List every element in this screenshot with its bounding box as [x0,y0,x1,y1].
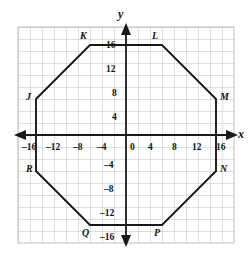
y-tick-label-8: 8 [112,89,117,99]
y-axis-label: y [118,8,123,20]
vertex-label-n: N [220,164,227,174]
x-tick-label-minus12: –12 [46,143,60,153]
y-tick-label-16: 16 [106,41,116,51]
vertex-label-j: J [26,92,31,102]
y-tick-label-4: 4 [112,113,117,123]
vertex-label-p: P [154,228,160,238]
vertex-label-q: Q [82,228,89,238]
y-tick-label-minus8: –8 [104,185,114,195]
y-tick-label-minus4: –4 [104,161,114,171]
vertex-label-k: K [80,31,87,41]
x-axis-label: x [238,128,244,140]
x-tick-label-12: 12 [192,143,202,153]
y-tick-label-minus16: –16 [100,233,114,243]
coordinate-plane-figure: –16 –12 –8 –4 0 4 8 12 16 16 12 8 4 –4 –… [0,0,252,256]
x-tick-label-8: 8 [172,143,177,153]
x-tick-label-0: 0 [130,143,135,153]
vertex-label-r: R [26,164,33,174]
x-tick-label-16: 16 [216,143,226,153]
vertex-label-m: M [220,92,229,102]
x-tick-label-minus16: –16 [22,143,36,153]
coordinate-plane-svg [0,0,252,256]
x-tick-label-minus8: –8 [73,143,83,153]
y-tick-label-minus12: –12 [100,209,114,219]
x-tick-label-4: 4 [148,143,153,153]
x-tick-label-minus4: –4 [97,143,107,153]
y-tick-label-12: 12 [106,65,116,75]
vertex-label-l: L [152,31,158,41]
